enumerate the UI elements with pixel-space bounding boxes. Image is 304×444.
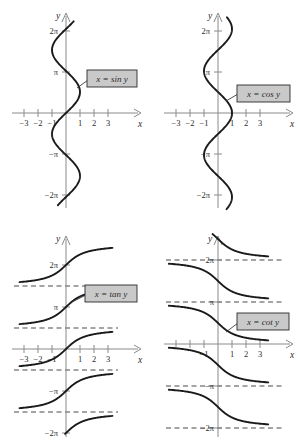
- y-tick-label: −π: [201, 149, 211, 159]
- y-tick-label: 2π: [49, 26, 58, 36]
- axes-sin: [12, 13, 141, 208]
- callout-leader-line: [226, 94, 238, 101]
- x-tick-label: 2: [244, 118, 248, 128]
- y-tick-label: π: [206, 67, 211, 77]
- x-tick-label: 2: [92, 354, 96, 364]
- x-tick-label: 3: [106, 118, 110, 128]
- callout-tan: x = tan y: [72, 285, 137, 302]
- y-tick-label: −2π: [45, 428, 59, 438]
- callout-label-cot: x = cot y: [246, 317, 279, 327]
- panel-cos: −3 −2 −1 1 2 3 2π π −π −2π x y x = cos y: [152, 0, 304, 222]
- y-axis-name: y: [55, 11, 61, 21]
- panel-sin-svg: −3 −2 −1 1 2 3 2π π −π −2π x y x = sin y: [0, 0, 152, 222]
- panel-cot-svg: −1 1 2 3 2π π −π −2π x y x = cot y: [152, 222, 304, 444]
- panel-tan-svg: −3 −2 −1 1 2 3 2π π −π −2π x y x = tan y: [0, 222, 152, 444]
- x-axis-name: x: [137, 119, 143, 129]
- y-tick-label: π: [54, 302, 59, 312]
- callout-leader-line: [226, 323, 238, 332]
- y-tick-label: 2π: [49, 260, 58, 270]
- x-tick-label: 3: [258, 349, 262, 359]
- x-tick-label: 2: [92, 118, 96, 128]
- y-tick-label: −2π: [197, 190, 211, 200]
- y-tick-label: −2π: [45, 190, 59, 200]
- trig-graphs-figure: −3 −2 −1 1 2 3 2π π −π −2π x y x = sin y: [0, 0, 304, 444]
- callout-cot: x = cot y: [226, 313, 289, 332]
- x-tick-label: 1: [78, 354, 82, 364]
- x-tick-label: −3: [19, 118, 28, 128]
- curve-cot-branch: [169, 390, 268, 425]
- y-tick-label: π: [210, 297, 215, 307]
- x-tick-label: 1: [78, 118, 82, 128]
- panel-cot: −1 1 2 3 2π π −π −2π x y x = cot y: [152, 222, 304, 444]
- x-axis-name: x: [289, 119, 295, 129]
- y-tick-label: 2π: [201, 26, 210, 36]
- y-axis-name: y: [207, 234, 213, 244]
- panel-tan: −3 −2 −1 1 2 3 2π π −π −2π x y x = tan y: [0, 222, 152, 444]
- panel-cos-svg: −3 −2 −1 1 2 3 2π π −π −2π x y x = cos y: [152, 0, 304, 222]
- x-tick-label: 3: [258, 118, 262, 128]
- y-tick-label: −π: [49, 386, 59, 396]
- x-tick-label: 3: [106, 354, 110, 364]
- x-tick-label: −3: [171, 118, 180, 128]
- curve-cot-branch: [169, 264, 268, 299]
- callout-cos: x = cos y: [226, 85, 290, 102]
- axes-cot: [164, 236, 293, 437]
- x-tick-label: −1: [199, 118, 208, 128]
- y-tick-label: π: [54, 67, 59, 77]
- curve-cot-branch: [213, 234, 269, 256]
- y-tick-label: 2π: [205, 255, 214, 265]
- x-tick-label: 1: [230, 349, 234, 359]
- y-tick-label: −2π: [201, 423, 215, 433]
- panel-sin: −3 −2 −1 1 2 3 2π π −π −2π x y x = sin y: [0, 0, 152, 222]
- curve-tan-branch: [65, 416, 112, 434]
- x-axis-name: x: [137, 355, 143, 365]
- x-tick-label: −2: [33, 118, 42, 128]
- x-tick-label: −3: [19, 354, 28, 364]
- y-tick-label: −π: [205, 381, 215, 391]
- x-tick-label: −2: [185, 118, 194, 128]
- y-axis-name: y: [207, 11, 213, 21]
- y-axis-name: y: [55, 234, 61, 244]
- callout-label-cos: x = cos y: [246, 89, 280, 99]
- callout-sin: x = sin y: [77, 70, 137, 88]
- y-tick-label: −π: [49, 149, 59, 159]
- callout-label-sin: x = sin y: [95, 74, 127, 84]
- axes-cos: [164, 13, 293, 208]
- x-axis-name: x: [289, 350, 295, 360]
- x-tick-label: 2: [244, 349, 248, 359]
- callout-label-tan: x = tan y: [94, 289, 127, 299]
- curve-cot-branch: [169, 348, 268, 383]
